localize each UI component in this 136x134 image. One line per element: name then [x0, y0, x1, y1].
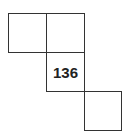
cell-r1-c2 [46, 13, 85, 53]
cell-r1-c1 [8, 13, 47, 53]
cell-r3-c3 [84, 91, 122, 131]
cell-r2-c2-number: 136 [46, 52, 85, 92]
